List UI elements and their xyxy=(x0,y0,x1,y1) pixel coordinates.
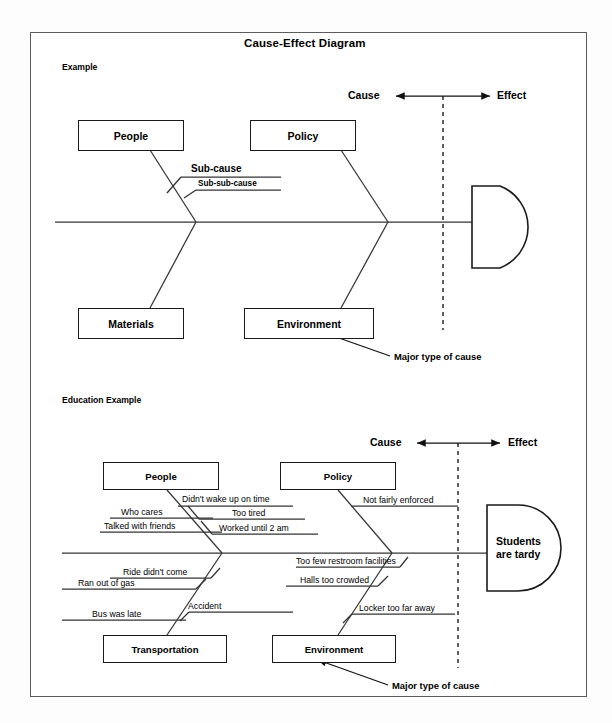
example-effect-label: Effect xyxy=(497,90,526,101)
education-bone-too-tired-conn xyxy=(188,506,199,519)
education-category-policy[interactable]: Policy xyxy=(280,462,396,490)
example-category-materials[interactable]: Materials xyxy=(78,308,184,339)
example-subsubcause-label: Sub-sub-cause xyxy=(198,180,257,188)
education-subcause-didnt-wake-up: Didn't wake up on time xyxy=(182,495,270,504)
education-category-people[interactable]: People xyxy=(103,462,219,490)
example-category-people[interactable]: People xyxy=(78,120,184,151)
education-subcause-accident: Accident xyxy=(188,602,221,611)
education-subcause-talked-with-friends: Talked with friends xyxy=(104,522,175,531)
example-heading: Example xyxy=(62,63,97,72)
example-rib-materials xyxy=(150,222,196,308)
education-cause-label: Cause xyxy=(370,437,402,448)
education-subcause-halls-too-crowded: Halls too crowded xyxy=(300,576,369,585)
education-bone-ride-conn xyxy=(211,568,220,578)
example-rib-environment xyxy=(341,222,388,308)
education-major-cause-pointer xyxy=(318,660,388,685)
education-subcause-ran-out-of-gas: Ran out of gas xyxy=(78,579,135,588)
example-rib-policy xyxy=(341,150,388,222)
education-effect-box-label: Students are tardy xyxy=(487,505,562,591)
education-bone-halls-conn xyxy=(378,576,388,586)
education-bone-ran-out-gas-conn xyxy=(196,579,206,589)
education-effect-line1: Students xyxy=(496,535,541,548)
example-subcause-label: Sub-cause xyxy=(191,164,242,174)
example-category-policy[interactable]: Policy xyxy=(250,120,356,151)
education-heading: Education Example xyxy=(62,396,141,405)
education-subcause-who-cares: Who cares xyxy=(121,508,163,517)
education-subcause-too-tired: Too tired xyxy=(232,509,265,518)
example-major-cause-annotation: Major type of cause xyxy=(394,351,482,362)
education-major-cause-annotation: Major type of cause xyxy=(392,680,480,691)
example-subsubcause-connector xyxy=(184,190,196,198)
education-rib-transportation xyxy=(167,553,222,635)
example-cause-label: Cause xyxy=(348,90,380,101)
example-effect-box xyxy=(472,186,528,268)
education-subcause-worked-until-2am: Worked until 2 am xyxy=(219,524,289,533)
education-bone-restroom-conn xyxy=(400,557,408,567)
education-subcause-locker-too-far-away: Locker too far away xyxy=(359,604,435,613)
page-title: Cause-Effect Diagram xyxy=(244,38,366,50)
example-category-environment[interactable]: Environment xyxy=(244,308,374,339)
education-category-transportation[interactable]: Transportation xyxy=(103,635,227,663)
education-subcause-bus-was-late: Bus was late xyxy=(92,610,141,619)
education-effect-label: Effect xyxy=(508,437,537,448)
education-subcause-too-few-restroom-facilities: Too few restroom facilities xyxy=(296,557,396,566)
page-canvas: Cause-Effect Diagram Example Cause Effec… xyxy=(0,0,612,723)
education-subcause-not-fairly-enforced: Not fairly enforced xyxy=(363,496,434,505)
education-effect-line2: are tardy xyxy=(496,548,541,561)
education-category-environment[interactable]: Environment xyxy=(272,635,396,663)
education-subcause-ride-didnt-come: Ride didn't come xyxy=(123,568,187,577)
